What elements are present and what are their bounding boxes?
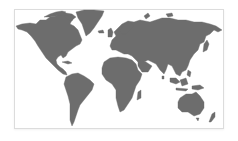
region-caribbean bbox=[62, 61, 72, 64]
region-borneo bbox=[180, 78, 188, 86]
world-map bbox=[0, 0, 238, 141]
region-british-isles bbox=[108, 28, 113, 37]
region-madagascar bbox=[137, 90, 141, 100]
region-africa bbox=[102, 57, 142, 112]
region-tasmania bbox=[196, 118, 199, 121]
region-philippines bbox=[187, 70, 191, 77]
region-new-guinea bbox=[192, 85, 204, 90]
region-south-america bbox=[64, 73, 94, 126]
region-sri-lanka bbox=[162, 76, 164, 79]
region-new-zealand bbox=[209, 112, 215, 122]
region-novaya-zemlya bbox=[144, 13, 150, 19]
region-iceland bbox=[98, 30, 104, 33]
region-severnaya-zemlya bbox=[166, 13, 173, 17]
region-arabia bbox=[138, 60, 152, 72]
region-indonesia-chain bbox=[176, 88, 188, 91]
region-north-america bbox=[16, 13, 82, 75]
region-southeast-asia-islands bbox=[170, 78, 180, 84]
region-australia bbox=[178, 92, 204, 116]
